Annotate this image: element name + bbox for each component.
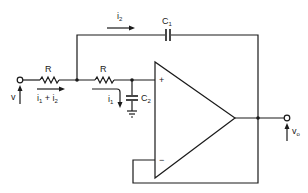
wire-to-c1 xyxy=(77,35,165,80)
wire-c1-to-output xyxy=(171,35,258,118)
input-terminal xyxy=(17,77,23,83)
output-voltage-label: vo xyxy=(292,126,301,137)
i1-plus-i2-arrow-icon xyxy=(59,87,65,92)
i2-label: i2 xyxy=(117,11,123,22)
i1-arrow-icon xyxy=(118,102,123,108)
opamp-triangle xyxy=(155,62,235,178)
i1-label: i1 xyxy=(108,94,114,105)
i1-plus-i2-label: i1 + i2 xyxy=(37,93,59,104)
opamp-plus-label: + xyxy=(159,75,164,85)
i1-arrow-shaft xyxy=(92,89,120,104)
r1-label: R xyxy=(45,64,52,74)
input-voltage-label: v xyxy=(11,92,16,102)
i2-arrow-icon xyxy=(129,26,135,31)
circuit-diagram: R R C1 i2 C2 i1 i1 + i2 v + − vo xyxy=(0,0,308,193)
v-arrow-icon xyxy=(18,85,23,91)
c2-label: C2 xyxy=(141,93,152,104)
r2-label: R xyxy=(100,64,107,74)
ground-icon xyxy=(127,111,137,117)
resistor-r1 xyxy=(40,77,59,83)
unity-feedback-wire xyxy=(133,118,258,183)
vo-arrow-icon xyxy=(285,123,290,129)
opamp-minus-label: − xyxy=(159,155,164,165)
output-terminal xyxy=(284,115,290,121)
resistor-r2 xyxy=(95,77,114,83)
c1-label: C1 xyxy=(162,16,173,27)
